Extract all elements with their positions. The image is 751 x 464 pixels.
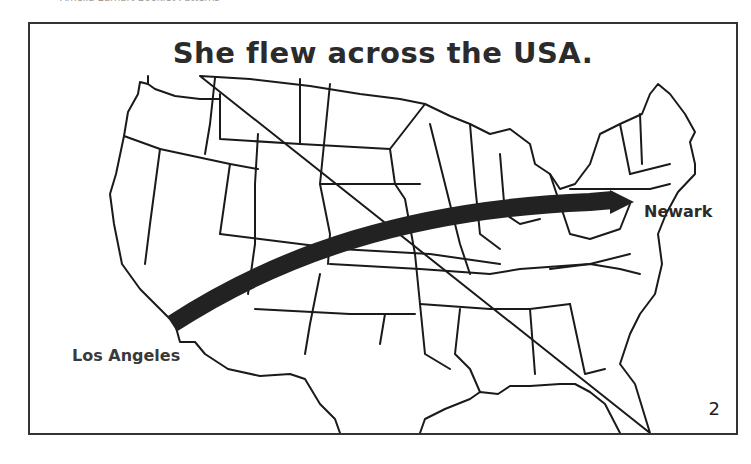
origin-label-los-angeles: Los Angeles: [72, 346, 180, 365]
destination-label-newark: Newark: [644, 202, 712, 221]
page-frame: She flew across the USA. Los Angeles New…: [28, 22, 738, 435]
usa-map: [30, 24, 736, 433]
booklet-header-text: Amelia Earhart Booklet Patterns: [60, 0, 220, 3]
usa-outline: [110, 76, 695, 433]
page-number: 2: [709, 398, 720, 419]
flight-path-arrow: [172, 200, 613, 324]
page-title: She flew across the USA.: [30, 36, 736, 70]
arrowhead-icon: [610, 190, 634, 214]
